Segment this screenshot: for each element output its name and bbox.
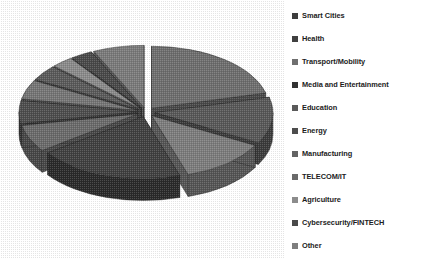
chart-legend: Smart Cities Health Transport/Mobility M… [292, 4, 421, 256]
legend-swatch-health [292, 36, 298, 42]
legend-item-telecom-it[interactable]: TELECOM/IT [292, 165, 421, 188]
legend-label-cybersecurity-fintech: Cybersecurity/FINTECH [302, 211, 384, 234]
legend-swatch-agriculture [292, 197, 298, 203]
legend-swatch-education [292, 105, 298, 111]
legend-label-other: Other [302, 234, 321, 257]
legend-swatch-manufacturing [292, 151, 298, 157]
legend-swatch-energy [292, 128, 298, 134]
legend-item-education[interactable]: Education [292, 96, 421, 119]
legend-item-energy[interactable]: Energy [292, 119, 421, 142]
chart-plot-area [0, 0, 285, 258]
legend-label-manufacturing: Manufacturing [302, 142, 352, 165]
legend-swatch-smart-cities [292, 13, 298, 19]
legend-item-other[interactable]: Other [292, 234, 421, 257]
legend-swatch-media-and-entertainment [292, 82, 298, 88]
legend-item-health[interactable]: Health [292, 27, 421, 50]
legend-item-cybersecurity-fintech[interactable]: Cybersecurity/FINTECH [292, 211, 421, 234]
legend-label-smart-cities: Smart Cities [302, 4, 345, 27]
legend-item-transport-mobility[interactable]: Transport/Mobility [292, 50, 421, 73]
pie-slices-group [19, 45, 273, 200]
legend-label-energy: Energy [302, 119, 327, 142]
legend-label-transport-mobility: Transport/Mobility [302, 50, 365, 73]
legend-item-manufacturing[interactable]: Manufacturing [292, 142, 421, 165]
legend-swatch-other [292, 243, 298, 249]
legend-item-smart-cities[interactable]: Smart Cities [292, 4, 421, 27]
exploded-3d-pie-svg [0, 0, 285, 258]
legend-label-health: Health [302, 27, 324, 50]
legend-item-agriculture[interactable]: Agriculture [292, 188, 421, 211]
legend-item-media-and-entertainment[interactable]: Media and Entertainment [292, 73, 421, 96]
legend-label-telecom-it: TELECOM/IT [302, 165, 346, 188]
legend-swatch-telecom-it [292, 174, 298, 180]
legend-swatch-transport-mobility [292, 59, 298, 65]
legend-label-agriculture: Agriculture [302, 188, 341, 211]
legend-label-education: Education [302, 96, 337, 119]
legend-label-media-and-entertainment: Media and Entertainment [302, 73, 389, 96]
pie-chart-figure: Smart Cities Health Transport/Mobility M… [0, 0, 421, 258]
legend-swatch-cybersecurity-fintech [292, 220, 298, 226]
